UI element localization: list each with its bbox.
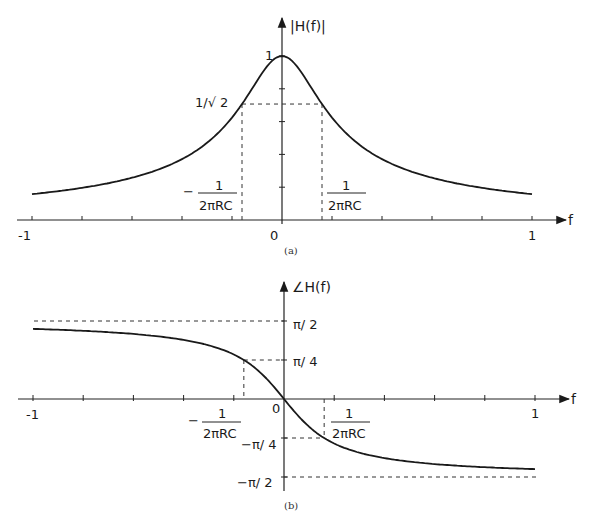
y-tick-pi2: π/ 2 [293, 317, 318, 332]
magnitude-plot: |H(f)| f 1 1/√ 2 -1 0 1 − 1 2πRC 1 2πRC … [17, 18, 574, 256]
x-tick-label-neg1-a: -1 [18, 228, 31, 243]
caption-b: (b) [284, 500, 298, 511]
neg-cutoff-minus-a: − [183, 184, 194, 199]
x-tick-label-1-a: 1 [528, 228, 536, 243]
x-label-a: f [568, 212, 574, 228]
neg-cutoff-num-b: 1 [218, 406, 226, 421]
phase-plot: ∠H(f) f π/ 2 π/ 4 −π/ 4 −π/ 2 -1 0 1 − 1… [18, 279, 577, 511]
y-one-label: 1 [265, 48, 273, 63]
pos-cutoff-num-a: 1 [342, 178, 350, 193]
y-label-b: ∠H(f) [292, 279, 331, 295]
bode-figure: |H(f)| f 1 1/√ 2 -1 0 1 − 1 2πRC 1 2πRC … [0, 0, 592, 528]
y-half-power-label: 1/√ 2 [195, 95, 228, 110]
pos-cutoff-num-b: 1 [345, 406, 353, 421]
neg-cutoff-den-b: 2πRC [203, 426, 237, 441]
x-tick-label-neg1-b: -1 [26, 407, 39, 422]
neg-cutoff-num-a: 1 [215, 178, 223, 193]
x-tick-label-0-b: 0 [272, 401, 280, 416]
y-tick-neg-pi4: −π/ 4 [241, 437, 277, 452]
x-label-b: f [571, 391, 577, 407]
x-tick-label-1-b: 1 [531, 406, 539, 421]
pos-cutoff-den-a: 2πRC [328, 198, 362, 213]
neg-cutoff-minus-b: − [188, 413, 199, 428]
y-label-a: |H(f)| [290, 18, 326, 35]
y-tick-pi4: π/ 4 [293, 354, 318, 369]
x-tick-label-0-a: 0 [270, 228, 278, 243]
neg-cutoff-den-a: 2πRC [199, 198, 233, 213]
y-tick-neg-pi2: −π/ 2 [237, 475, 273, 490]
caption-a: (a) [284, 245, 298, 256]
pos-cutoff-den-b: 2πRC [332, 426, 366, 441]
